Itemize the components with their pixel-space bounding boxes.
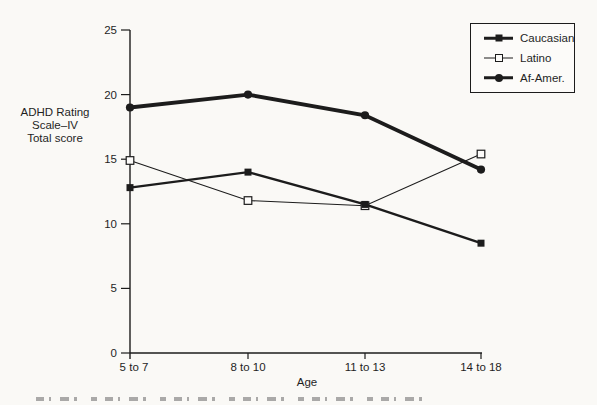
open-square-marker-icon <box>495 54 503 62</box>
y-tick-label: 5 <box>111 282 117 294</box>
data-point-latino <box>477 150 485 158</box>
data-point-af-amer <box>477 165 485 173</box>
data-point-af-amer <box>244 91 252 99</box>
legend-label-caucasian: Caucasian <box>520 32 574 44</box>
data-point-latino <box>244 197 252 205</box>
data-point-caucasian <box>362 201 369 208</box>
latino-line-sample <box>484 53 513 63</box>
caucasian-line-sample <box>484 33 513 43</box>
series-line-caucasian <box>130 172 481 243</box>
y-tick-label: 15 <box>104 153 117 165</box>
legend-item-latino: Latino <box>484 50 572 67</box>
cropped-caption-fragment <box>36 397 428 401</box>
y-axis-title-line1: ADHD Rating <box>10 106 100 119</box>
filled-circle-marker-icon <box>495 74 503 82</box>
x-axis-title: Age <box>276 376 338 388</box>
y-axis-title: ADHD Rating Scale–IV Total score <box>10 106 100 145</box>
filled-square-marker-icon <box>495 35 502 42</box>
x-tick-label: 11 to 13 <box>345 361 386 373</box>
y-tick-label: 0 <box>111 347 117 359</box>
y-tick-label: 20 <box>104 89 117 101</box>
data-point-af-amer <box>126 103 134 111</box>
x-tick-label: 14 to 18 <box>460 361 502 373</box>
y-axis-title-line2: Scale–IV <box>10 119 100 132</box>
chart-legend: Caucasian Latino Af-Amer. <box>470 23 575 93</box>
legend-label-latino: Latino <box>520 52 551 64</box>
y-tick-label: 10 <box>104 218 117 230</box>
data-point-caucasian <box>245 169 252 176</box>
scanned-figure-page: 05101520255 to 78 to 1011 to 1314 to 18 … <box>0 0 597 405</box>
data-point-af-amer <box>361 111 369 119</box>
y-tick-label: 25 <box>104 24 117 36</box>
legend-label-af-amer: Af-Amer. <box>520 72 565 84</box>
af-amer-line-sample <box>484 73 513 83</box>
series-line-af-amer <box>130 95 481 170</box>
x-tick-label: 8 to 10 <box>230 361 265 373</box>
data-point-latino <box>126 157 134 165</box>
y-axis-title-line3: Total score <box>10 132 100 145</box>
legend-item-caucasian: Caucasian <box>484 30 572 47</box>
data-point-caucasian <box>478 240 485 247</box>
data-point-caucasian <box>127 184 134 191</box>
legend-item-af-amer: Af-Amer. <box>484 69 572 86</box>
x-tick-label: 5 to 7 <box>120 361 149 373</box>
